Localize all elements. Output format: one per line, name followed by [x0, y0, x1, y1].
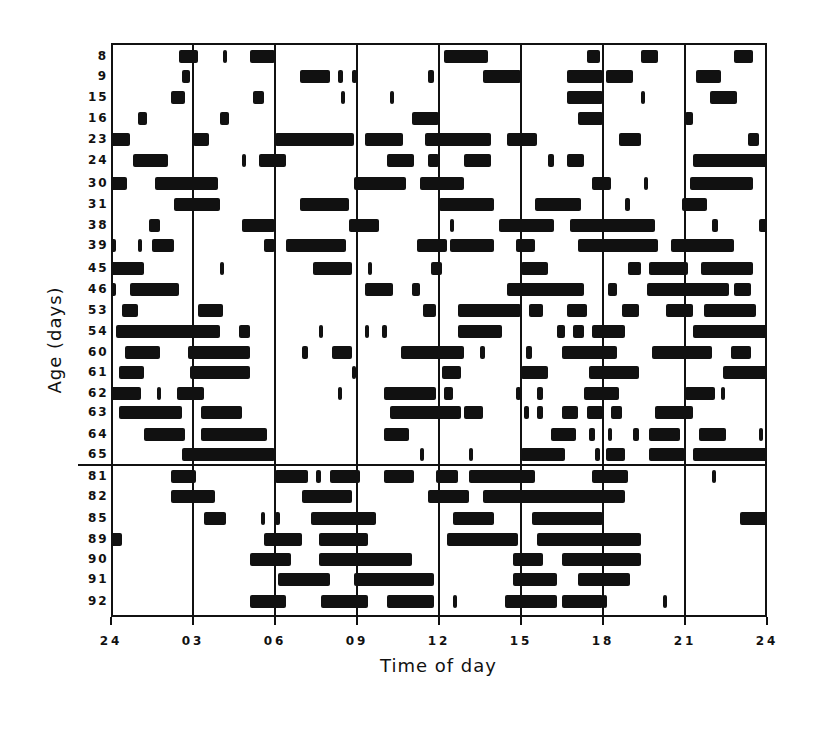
activity-bout-bar: [685, 387, 715, 400]
activity-bout-bar: [464, 154, 491, 167]
activity-bout-bar: [562, 553, 641, 566]
activity-bout-bar: [352, 70, 357, 83]
y-tick-label: 64: [88, 427, 108, 441]
activity-bout-bar: [316, 470, 321, 483]
activity-bout-bar: [417, 239, 447, 252]
activity-bout-bar: [220, 112, 228, 125]
activity-bout-bar: [516, 239, 535, 252]
x-tick-label: 21: [665, 634, 705, 648]
activity-bout-bar: [759, 428, 763, 441]
activity-bout-bar: [261, 512, 265, 525]
x-tick-mark: [192, 617, 194, 625]
activity-bout-bar: [450, 219, 454, 232]
activity-bout-bar: [144, 428, 185, 441]
activity-bout-bar: [537, 533, 641, 546]
activity-bout-bar: [649, 448, 685, 461]
activity-bout-bar: [548, 154, 553, 167]
activity-bout-bar: [275, 470, 308, 483]
activity-bout-bar: [592, 470, 628, 483]
activity-bout-bar: [567, 304, 586, 317]
y-tick-label: 23: [88, 132, 108, 146]
activity-bout-bar: [300, 70, 330, 83]
activity-bout-bar: [537, 406, 542, 419]
activity-bout-bar: [220, 262, 224, 275]
activity-bout-bar: [149, 219, 160, 232]
activity-bout-bar: [731, 346, 750, 359]
activity-bout-bar: [693, 448, 767, 461]
y-tick-label: 31: [88, 197, 108, 211]
y-tick-label: 30: [88, 176, 108, 190]
y-tick-label: 82: [88, 489, 108, 503]
activity-bout-bar: [428, 70, 433, 83]
activity-bout-bar: [286, 239, 346, 252]
activity-bout-bar: [507, 283, 584, 296]
activity-bout-bar: [111, 133, 130, 146]
activity-bout-bar: [116, 325, 220, 338]
activity-bout-bar: [401, 346, 464, 359]
x-tick-label: 09: [337, 634, 377, 648]
activity-bout-bar: [428, 490, 469, 503]
activity-bout-bar: [319, 553, 412, 566]
y-tick-label: 8: [88, 49, 108, 63]
activity-bout-bar: [606, 448, 625, 461]
activity-bout-bar: [349, 219, 379, 232]
y-tick-label: 63: [88, 405, 108, 419]
activity-bout-bar: [179, 50, 198, 63]
activity-bout-bar: [644, 177, 648, 190]
activity-bout-bar: [587, 406, 603, 419]
activity-bout-bar: [516, 387, 521, 400]
activity-bout-bar: [311, 512, 377, 525]
activity-bout-bar: [130, 283, 179, 296]
activity-bout-bar: [458, 325, 502, 338]
activity-bout-bar: [562, 595, 603, 608]
activity-bout-bar: [223, 50, 227, 63]
y-tick-label: 45: [88, 261, 108, 275]
activity-bout-bar: [592, 177, 611, 190]
y-axis-title: Age (days): [44, 286, 65, 393]
activity-bout-bar: [690, 177, 753, 190]
activity-bout-bar: [578, 573, 630, 586]
activity-bout-bar: [174, 198, 220, 211]
activity-bout-bar: [444, 387, 452, 400]
activity-bout-bar: [584, 387, 620, 400]
activity-bout-bar: [480, 346, 485, 359]
activity-bout-bar: [152, 239, 174, 252]
activity-bout-bar: [436, 470, 458, 483]
x-tick-label: 15: [501, 634, 541, 648]
activity-bout-bar: [567, 154, 583, 167]
activity-bout-bar: [521, 366, 548, 379]
activity-bout-bar: [633, 428, 638, 441]
activity-bout-bar: [319, 533, 368, 546]
activity-bout-bar: [450, 239, 494, 252]
activity-bout-bar: [420, 177, 464, 190]
activity-bout-bar: [622, 304, 638, 317]
y-tick-label: 39: [88, 238, 108, 252]
activity-bout-bar: [111, 387, 141, 400]
y-tick-label: 61: [88, 365, 108, 379]
activity-bout-bar: [458, 304, 521, 317]
activity-bout-bar: [529, 304, 543, 317]
y-tick-label: 38: [88, 218, 108, 232]
activity-bout-bar: [264, 239, 275, 252]
activity-bout-bar: [693, 325, 767, 338]
activity-bout-bar: [384, 387, 436, 400]
activity-bout-bar: [250, 553, 291, 566]
activity-bout-bar: [734, 50, 753, 63]
activity-bout-bar: [390, 406, 461, 419]
activity-bout-bar: [464, 406, 483, 419]
activity-bout-bar: [748, 133, 759, 146]
y-tick-label: 90: [88, 552, 108, 566]
x-tick-mark: [684, 617, 686, 625]
activity-bout-bar: [138, 239, 142, 252]
activity-bout-bar: [242, 219, 275, 232]
activity-bout-bar: [570, 219, 655, 232]
gridline: [356, 43, 358, 617]
activity-bout-bar: [578, 239, 657, 252]
activity-bout-bar: [253, 91, 264, 104]
activity-bout-bar: [469, 470, 535, 483]
activity-bout-bar: [453, 512, 494, 525]
x-tick-mark: [274, 617, 276, 625]
y-tick-label: 46: [88, 282, 108, 296]
activity-bout-bar: [611, 406, 622, 419]
activity-bout-bar: [300, 198, 349, 211]
